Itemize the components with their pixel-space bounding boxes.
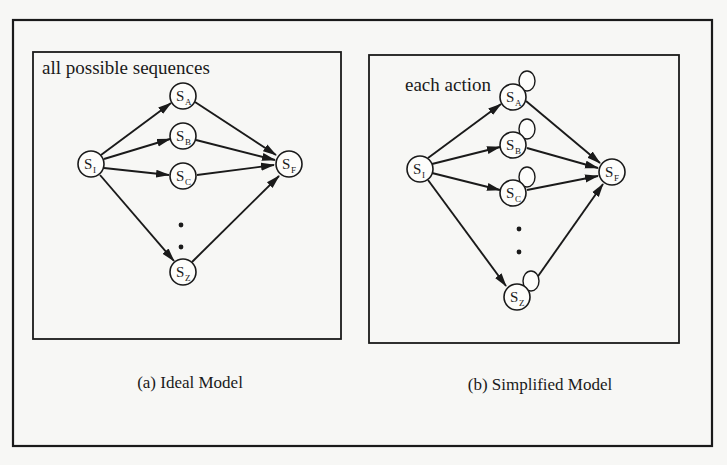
edge-sz-sf xyxy=(192,176,279,262)
svg-text:I: I xyxy=(93,165,96,175)
svg-text:Z: Z xyxy=(185,273,191,283)
edge-si-sz xyxy=(100,175,174,261)
node-s-z: S Z xyxy=(170,259,196,285)
ellipsis-dot xyxy=(179,245,184,250)
svg-text:Z: Z xyxy=(519,298,525,308)
edge-si-sc xyxy=(432,173,500,190)
svg-text:S: S xyxy=(605,164,613,180)
svg-text:C: C xyxy=(515,194,521,204)
node-s-b: S B xyxy=(500,132,526,158)
edge-sa-sf xyxy=(526,101,600,163)
edge-si-sb xyxy=(432,147,500,164)
node-s-c: S C xyxy=(500,180,526,206)
edge-sb-sf xyxy=(196,140,275,160)
svg-text:I: I xyxy=(422,170,425,180)
panel-b-title: each action xyxy=(405,74,491,95)
caption-ideal-model: (a) Ideal Model xyxy=(137,373,243,392)
svg-text:S: S xyxy=(282,156,290,172)
svg-text:S: S xyxy=(176,264,184,280)
node-s-b: S B xyxy=(170,123,196,149)
svg-text:S: S xyxy=(176,128,184,144)
panel-ideal-model: all possible sequences S I S A S B xyxy=(33,52,341,339)
svg-text:S: S xyxy=(176,88,184,104)
edge-si-sz xyxy=(428,180,506,286)
svg-text:S: S xyxy=(176,168,184,184)
svg-text:S: S xyxy=(506,137,514,153)
edge-si-sc xyxy=(104,168,169,175)
node-s-z: S Z xyxy=(504,284,530,310)
svg-text:B: B xyxy=(515,146,521,156)
node-s-i: S I xyxy=(407,156,433,182)
edge-sc-sf xyxy=(527,176,598,190)
svg-text:C: C xyxy=(185,177,191,187)
node-s-a: S A xyxy=(500,84,526,110)
panel-a-title: all possible sequences xyxy=(42,57,210,78)
ellipsis-dot xyxy=(179,223,184,228)
svg-text:S: S xyxy=(413,161,421,177)
svg-text:S: S xyxy=(506,185,514,201)
svg-text:S: S xyxy=(506,89,514,105)
node-s-f: S F xyxy=(276,151,302,177)
edge-sc-sf xyxy=(197,165,274,175)
edge-si-sb xyxy=(104,139,170,159)
node-s-i: S I xyxy=(78,151,104,177)
node-s-a: S A xyxy=(170,83,196,109)
svg-text:A: A xyxy=(185,97,192,107)
ellipsis-dot xyxy=(517,250,522,255)
svg-text:B: B xyxy=(185,137,191,147)
edge-sz-sf xyxy=(529,184,603,289)
edge-sb-sf xyxy=(527,148,598,168)
caption-simplified-model: (b) Simplified Model xyxy=(468,375,613,394)
svg-text:A: A xyxy=(515,98,522,108)
panel-simplified-model: each action S I S A S xyxy=(369,55,679,343)
svg-text:S: S xyxy=(84,156,92,172)
svg-text:S: S xyxy=(510,289,518,305)
node-s-c: S C xyxy=(170,163,196,189)
svg-text:F: F xyxy=(614,173,619,183)
edge-si-sa xyxy=(101,103,171,155)
edge-sa-sf xyxy=(195,102,276,155)
figure: all possible sequences S I S A S B xyxy=(0,0,727,465)
node-s-f: S F xyxy=(599,159,625,185)
svg-text:F: F xyxy=(291,165,296,175)
ellipsis-dot xyxy=(517,227,522,232)
